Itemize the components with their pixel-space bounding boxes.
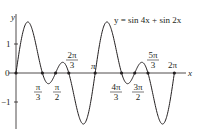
tick-label-3pi-over-2: 3π 2 [132, 82, 144, 102]
equation-label: y = sin 4x + sin 2x [114, 15, 182, 25]
y-axis-label: y [10, 12, 15, 22]
origin-label: 0 [5, 68, 10, 78]
svg-text:π: π [36, 82, 41, 92]
svg-text:3π: 3π [133, 82, 143, 92]
svg-text:3: 3 [114, 92, 119, 102]
zero-marker-dot [146, 71, 149, 74]
svg-text:3: 3 [36, 92, 41, 102]
svg-text:π: π [55, 82, 60, 92]
svg-text:5π: 5π [148, 50, 158, 60]
zero-marker-dot [14, 71, 17, 74]
svg-text:2: 2 [136, 92, 141, 102]
svg-text:2: 2 [55, 92, 60, 102]
tick-label-pi-over-3: π 3 [34, 82, 42, 102]
zero-marker-dot [67, 71, 70, 74]
tick-label-2pi-over-3: 2π 3 [66, 50, 78, 70]
svg-text:2π: 2π [67, 50, 77, 60]
x-axis-label: x [187, 68, 192, 78]
tick-label-pi: π [91, 61, 96, 71]
tick-label-pi-over-2: π 2 [53, 82, 61, 102]
chart-svg: y x 0 1 −1 y = sin 4x + sin 2x π 3 π 2 4… [0, 0, 197, 129]
zero-marker-dot [120, 71, 123, 74]
svg-text:4π: 4π [111, 82, 121, 92]
tick-label-2pi: 2π [168, 60, 178, 70]
y-tick-label-1: 1 [6, 39, 11, 49]
svg-text:3: 3 [70, 60, 75, 70]
tick-label-5pi-over-3: 5π 3 [147, 50, 159, 70]
zero-marker-dot [94, 71, 97, 74]
svg-text:3: 3 [151, 60, 156, 70]
zero-marker-dot [54, 71, 57, 74]
zero-marker-dot [133, 71, 136, 74]
zero-marker-dot [41, 71, 44, 74]
zero-marker-dot [173, 71, 176, 74]
tick-label-4pi-over-3: 4π 3 [110, 82, 122, 102]
y-tick-label-minus-1: −1 [1, 97, 11, 107]
